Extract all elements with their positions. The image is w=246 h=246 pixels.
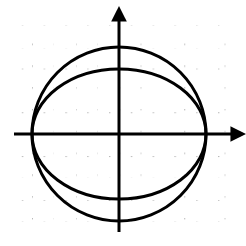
math-figure [0,0,246,246]
figure-container [0,0,246,246]
figure-background [0,0,246,246]
